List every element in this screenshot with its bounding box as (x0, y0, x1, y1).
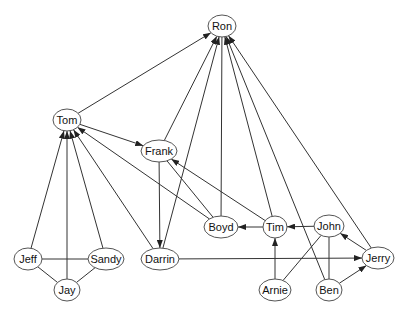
node-jerry: Jerry (362, 247, 394, 269)
node-boyd: Boyd (204, 216, 238, 238)
edge-boyd-to-tom (77, 127, 209, 219)
node-label: Jerry (366, 252, 391, 264)
node-label: Tom (57, 114, 78, 126)
node-label: Jeff (19, 253, 37, 265)
edge-frank-to-darrin (159, 162, 160, 248)
edge-darrin-to-tom (74, 130, 154, 249)
node-label: Boyd (208, 221, 233, 233)
edge-john-to-tim (287, 226, 314, 227)
edge-jerry-to-ron (229, 36, 372, 248)
node-label: Darrin (145, 253, 175, 265)
node-label: Ron (212, 20, 232, 32)
edge-jeff-to-tom (31, 131, 64, 249)
node-arnie: Arnie (259, 279, 291, 301)
node-label: John (317, 220, 341, 232)
graph-canvas: RonTomFrankBoydTimJohnJeffSandyDarrinJer… (0, 0, 407, 310)
edge-frank-to-ron (164, 36, 217, 140)
node-label: Frank (145, 145, 174, 157)
node-jay: Jay (54, 279, 80, 301)
social-network-graph: RonTomFrankBoydTimJohnJeffSandyDarrinJer… (0, 0, 407, 310)
edges-layer (31, 33, 371, 284)
node-tim: Tim (263, 216, 287, 238)
node-label: Sandy (90, 253, 122, 265)
edge-boyd-to-ron (221, 37, 222, 216)
edge-ben-to-jerry (339, 266, 366, 284)
node-label: Tim (266, 221, 284, 233)
edge-tim-to-ron (225, 37, 272, 217)
edge-darrin-to-jerry (179, 258, 362, 259)
node-tom: Tom (53, 109, 81, 131)
node-ben: Ben (316, 279, 342, 301)
node-ron: Ron (208, 15, 236, 37)
edge-tom-to-ron (78, 33, 211, 114)
node-john: John (314, 215, 344, 237)
node-label: Jay (58, 284, 76, 296)
node-frank: Frank (141, 140, 177, 162)
edge-tim-to-frank (171, 159, 265, 221)
edge-jay-to-sandy (76, 268, 95, 283)
edge-jeff-to-jay (38, 267, 58, 283)
node-sandy: Sandy (88, 248, 124, 270)
node-jeff: Jeff (14, 248, 42, 270)
edge-boyd-to-frank (167, 161, 213, 217)
edge-jerry-to-john (340, 233, 366, 250)
node-darrin: Darrin (141, 248, 179, 270)
node-label: Ben (319, 284, 339, 296)
edge-ben-to-ron (226, 36, 325, 279)
node-label: Arnie (262, 284, 288, 296)
